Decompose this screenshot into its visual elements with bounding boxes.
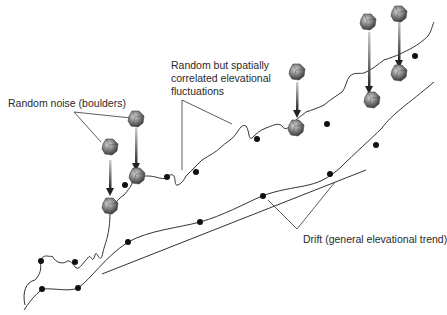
lower-surface-line (24, 82, 434, 310)
boulders (102, 6, 407, 214)
fluctuation-label-3: fluctuations (171, 85, 224, 97)
lower-sample-points (39, 142, 379, 292)
drift-trend-line (102, 170, 366, 274)
fluctuation-label-2: correlated elevational (171, 72, 271, 84)
drift-label: Drift (general elevational trend) (303, 233, 447, 245)
fluctuation-label-1: Random but spatially (171, 59, 269, 71)
drop-arrows (106, 20, 403, 196)
noise-label: Random noise (boulders) (8, 97, 126, 109)
